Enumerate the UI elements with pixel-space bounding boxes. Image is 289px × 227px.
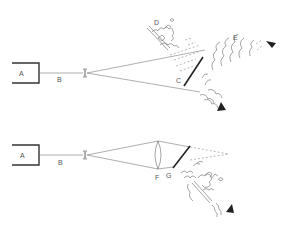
bottom-diagram: A B F G bbox=[12, 141, 234, 217]
source-box-bottom bbox=[12, 145, 39, 165]
mirror-g bbox=[173, 146, 190, 168]
cone-upper-bottom bbox=[87, 141, 158, 155]
label-b-bottom: B bbox=[58, 159, 63, 166]
ray-upper-after-lens bbox=[158, 141, 190, 147]
virtual-rays-bottom bbox=[190, 147, 229, 160]
scene-d: D bbox=[147, 19, 179, 51]
label-b-top: B bbox=[57, 76, 62, 83]
cone-upper-top bbox=[87, 50, 205, 73]
top-diagram: A B C D E bbox=[12, 19, 276, 112]
label-c: C bbox=[176, 77, 181, 84]
reflected-waves-top bbox=[200, 74, 222, 108]
image-e: E bbox=[212, 34, 262, 70]
diverging-lens-bottom bbox=[83, 151, 87, 159]
scattered-light-d bbox=[170, 38, 200, 71]
cone-lower-top bbox=[87, 73, 200, 92]
eye-icon-top-lower bbox=[217, 102, 226, 111]
diverging-lens-top bbox=[83, 69, 87, 77]
cone-lower-bottom bbox=[87, 155, 158, 169]
source-box-top bbox=[12, 63, 39, 83]
optical-diagram: A B C D E bbox=[0, 0, 289, 227]
mirror-c bbox=[184, 57, 203, 86]
label-a-bottom: A bbox=[20, 152, 25, 159]
label-a-top: A bbox=[19, 70, 24, 77]
ray-lower-after-lens bbox=[158, 167, 173, 169]
label-f: F bbox=[155, 174, 159, 181]
label-g: G bbox=[166, 172, 171, 179]
label-e: E bbox=[233, 34, 238, 41]
eye-icon-bottom bbox=[226, 204, 234, 213]
label-d: D bbox=[154, 19, 159, 26]
scene-image-bottom bbox=[192, 172, 223, 203]
converging-lens-f bbox=[155, 141, 161, 169]
eye-icon-top-right bbox=[266, 41, 276, 48]
